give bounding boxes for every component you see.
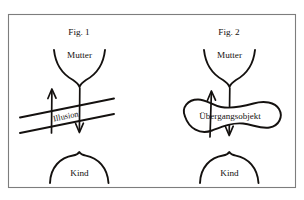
fig-1-kind-label: Kind (70, 168, 89, 178)
figure-root: Fig. 1 Mutter Illusion Kind Fig. 2 Mutte… (0, 0, 304, 200)
diagram-canvas: Fig. 1 Mutter Illusion Kind Fig. 2 Mutte… (0, 0, 304, 200)
fig-2-kind-label: Kind (220, 168, 239, 178)
fig-2-mutter-label: Mutter (217, 50, 242, 60)
fig-1-caption: Fig. 1 (68, 27, 90, 37)
fig-2-caption: Fig. 2 (218, 27, 240, 37)
fig-1-mutter-label: Mutter (67, 50, 92, 60)
fig-2-uebergangsobjekt-label: Übergangsobjekt (199, 111, 261, 121)
